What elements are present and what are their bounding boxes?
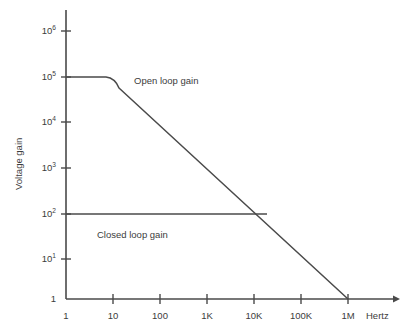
x-axis-arrowhead <box>393 295 400 302</box>
open-loop-gain-curve <box>66 77 348 299</box>
y-tick-label-1000000: 106 <box>28 26 56 36</box>
open-loop-gain-annotation: Open loop gain <box>134 76 198 86</box>
x-tick-label-100: 100 <box>152 311 168 321</box>
closed-loop-gain-annotation: Closed loop gain <box>97 230 168 240</box>
x-tick-label-1m: 1M <box>341 311 354 321</box>
x-tick-label-10: 10 <box>108 311 119 321</box>
y-axis-title: Voltage gain <box>14 138 24 190</box>
x-axis-unit-label: Hertz <box>366 311 389 321</box>
gain-frequency-chart: 106 105 104 103 102 101 1 1 10 100 1K 10… <box>0 0 404 334</box>
y-tick-label-10000: 104 <box>28 117 56 127</box>
y-tick-label-100: 102 <box>28 209 56 219</box>
chart-canvas <box>0 0 404 334</box>
x-tick-label-10k: 10K <box>246 311 263 321</box>
y-tick-label-1: 1 <box>28 294 56 304</box>
x-tick-label-1: 1 <box>63 311 68 321</box>
x-tick-label-100k: 100K <box>290 311 312 321</box>
y-tick-label-100000: 105 <box>28 72 56 82</box>
y-tick-label-1000: 103 <box>28 163 56 173</box>
y-tick-label-10: 101 <box>28 254 56 264</box>
x-tick-label-1k: 1K <box>201 311 213 321</box>
